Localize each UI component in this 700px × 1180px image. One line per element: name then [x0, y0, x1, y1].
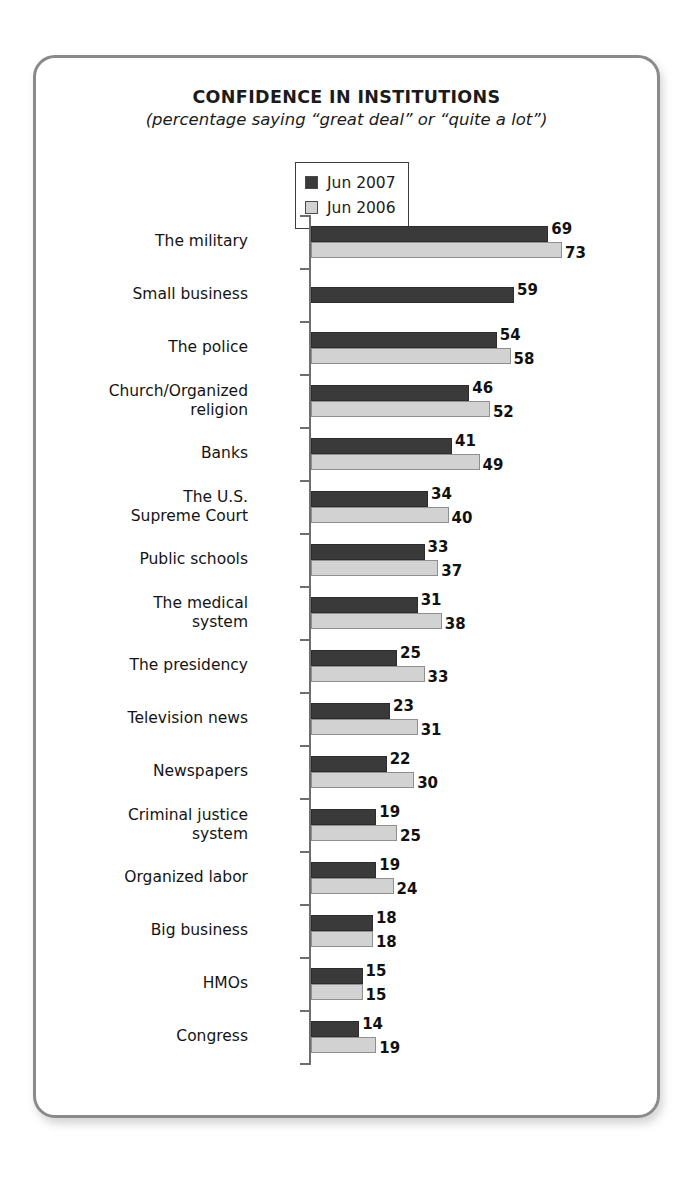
- bar-jun-2007: 22: [311, 756, 700, 772]
- category-label: Organized labor: [18, 851, 248, 904]
- bar-row: Small business59: [36, 268, 657, 321]
- bar-row: Newspapers2230: [36, 745, 657, 798]
- bar-value-label: 52: [493, 405, 514, 420]
- bar-row: Criminal justicesystem1925: [36, 798, 657, 851]
- bar-rect: [311, 878, 394, 894]
- axis-tick: [300, 1063, 310, 1065]
- bar-group: 6973: [311, 215, 700, 268]
- category-label: Newspapers: [18, 745, 248, 798]
- bar-jun-2006: 58: [311, 348, 700, 364]
- bar-rect: [311, 560, 438, 576]
- category-label: The military: [18, 215, 248, 268]
- bar-jun-2006: 15: [311, 984, 700, 1000]
- bar-rect: [311, 1021, 359, 1037]
- category-label-line: Banks: [201, 444, 248, 463]
- bar-rect: [311, 544, 425, 560]
- axis-tick: [300, 480, 310, 482]
- axis-tick: [300, 745, 310, 747]
- bar-jun-2006: 18: [311, 931, 700, 947]
- bar-value-label: 69: [551, 222, 572, 237]
- axis-tick: [300, 904, 310, 906]
- category-label-line: system: [192, 613, 248, 632]
- bar-row: HMOs1515: [36, 957, 657, 1010]
- category-label-line: religion: [190, 401, 248, 420]
- category-label: The U.S.Supreme Court: [18, 480, 248, 533]
- bar-row: Television news2331: [36, 692, 657, 745]
- axis-tick: [300, 586, 310, 588]
- bar-group: 3138: [311, 586, 700, 639]
- bar-rect: [311, 719, 418, 735]
- bar-value-label: 19: [379, 805, 400, 820]
- category-label: Television news: [18, 692, 248, 745]
- bar-value-label: 58: [514, 352, 535, 367]
- bar-rect: [311, 332, 497, 348]
- bar-group: 1924: [311, 851, 700, 904]
- category-label: The medicalsystem: [18, 586, 248, 639]
- bar-row: The U.S.Supreme Court3440: [36, 480, 657, 533]
- chart-card: CONFIDENCE IN INSTITUTIONS (percentage s…: [33, 55, 660, 1118]
- bar-row: The medicalsystem3138: [36, 586, 657, 639]
- bar-value-label: 18: [376, 935, 397, 950]
- bar-row: Organized labor1924: [36, 851, 657, 904]
- bar-rect: [311, 613, 442, 629]
- bar-jun-2007: 46: [311, 385, 700, 401]
- bar-jun-2006: 37: [311, 560, 700, 576]
- bar-row: Church/Organizedreligion4652: [36, 374, 657, 427]
- bar-rect: [311, 809, 376, 825]
- axis-tick: [300, 268, 310, 270]
- bar-jun-2006: 52: [311, 401, 700, 417]
- chart-subtitle: (percentage saying “great deal” or “quit…: [36, 110, 657, 129]
- bar-jun-2007: 59: [311, 287, 700, 303]
- bar-rect: [311, 825, 397, 841]
- category-label-line: The military: [155, 232, 248, 251]
- bar-rect: [311, 597, 418, 613]
- bar-rect: [311, 454, 480, 470]
- chart-plot-area: The military6973Small business59The poli…: [36, 215, 657, 1065]
- bar-group: 1515: [311, 957, 700, 1010]
- category-label-line: Big business: [151, 921, 248, 940]
- legend-swatch-2006: [305, 201, 318, 214]
- bar-row: Congress1419: [36, 1010, 657, 1063]
- axis-tick: [300, 851, 310, 853]
- category-label-line: Newspapers: [153, 762, 248, 781]
- category-label: Big business: [18, 904, 248, 957]
- bar-group: 2533: [311, 639, 700, 692]
- bar-value-label: 25: [400, 829, 421, 844]
- category-label-line: Organized labor: [124, 868, 248, 887]
- bar-jun-2006: 25: [311, 825, 700, 841]
- bar-row: Public schools3337: [36, 533, 657, 586]
- category-label: Public schools: [18, 533, 248, 586]
- bar-rect: [311, 438, 452, 454]
- bar-jun-2006: 31: [311, 719, 700, 735]
- legend-item-2007: Jun 2007: [305, 170, 399, 195]
- bar-value-label: 33: [428, 540, 449, 555]
- bar-jun-2006: 30: [311, 772, 700, 788]
- bar-jun-2007: 15: [311, 968, 700, 984]
- category-label-line: The presidency: [130, 656, 248, 675]
- bar-rect: [311, 772, 414, 788]
- axis-tick: [300, 215, 310, 217]
- bar-rect: [311, 226, 548, 242]
- bar-jun-2007: 41: [311, 438, 700, 454]
- bar-group: 5458: [311, 321, 700, 374]
- bar-rect: [311, 968, 363, 984]
- bar-group: 2230: [311, 745, 700, 798]
- category-label: HMOs: [18, 957, 248, 1010]
- bar-value-label: 14: [362, 1017, 383, 1032]
- category-label-line: Small business: [132, 285, 248, 304]
- bar-group: 59: [311, 268, 700, 321]
- bar-rect: [311, 242, 562, 258]
- axis-tick: [300, 639, 310, 641]
- bar-jun-2007: 33: [311, 544, 700, 560]
- bar-rows: The military6973Small business59The poli…: [36, 215, 657, 1063]
- category-label: Banks: [18, 427, 248, 480]
- bar-rect: [311, 348, 511, 364]
- bar-value-label: 15: [366, 988, 387, 1003]
- axis-tick: [300, 798, 310, 800]
- bar-jun-2006: 73: [311, 242, 700, 258]
- axis-tick: [300, 374, 310, 376]
- bar-value-label: 31: [421, 723, 442, 738]
- category-label: Congress: [18, 1010, 248, 1063]
- bar-rect: [311, 862, 376, 878]
- axis-tick: [300, 692, 310, 694]
